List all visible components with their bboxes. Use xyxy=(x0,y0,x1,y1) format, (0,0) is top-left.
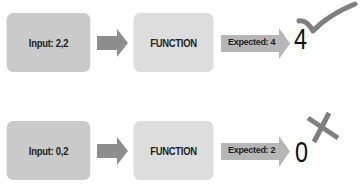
cross-icon xyxy=(0,0,363,185)
